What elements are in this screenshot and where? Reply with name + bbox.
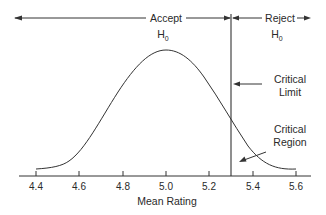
accept-h0-label: H0: [157, 28, 169, 42]
x-tick-label: 4.8: [116, 181, 130, 192]
x-tick-label: 5.0: [159, 181, 173, 192]
reject-h0-label: H0: [271, 28, 283, 42]
hypothesis-test-diagram: Accept H0 Reject H0 Critical Limit Criti…: [0, 0, 326, 215]
reject-label: Reject: [265, 12, 295, 24]
x-tick-label: 5.6: [289, 181, 303, 192]
accept-label: Accept: [150, 12, 182, 24]
accept-range-arrow: [14, 16, 231, 21]
x-tick-label: 4.4: [29, 181, 43, 192]
critical-region-label-line1: Critical: [274, 123, 306, 135]
x-axis-ticks: [36, 171, 296, 176]
critical-region-label-line2: Region: [273, 136, 306, 148]
x-tick-label: 5.2: [202, 181, 216, 192]
distribution-curve: [36, 50, 296, 169]
x-axis-title: Mean Rating: [137, 195, 197, 207]
x-tick-label: 5.4: [246, 181, 260, 192]
x-tick-label: 4.6: [72, 181, 86, 192]
critical-limit-pointer-arrow: [233, 82, 262, 87]
critical-limit-label-line1: Critical: [274, 73, 306, 85]
critical-limit-label-line2: Limit: [279, 86, 301, 98]
